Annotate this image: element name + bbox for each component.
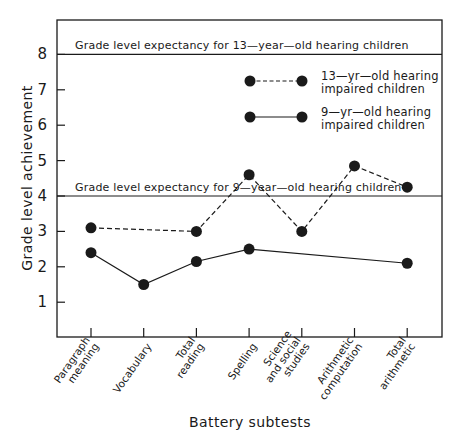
x-category-label: Totalarithmetic <box>367 334 417 392</box>
y-axis: 12345678 <box>37 45 65 311</box>
data-point-marker <box>86 247 97 258</box>
data-point-marker <box>244 169 255 180</box>
data-point-marker <box>191 226 202 237</box>
data-point-marker <box>244 244 255 255</box>
y-tick-label: 6 <box>37 116 47 134</box>
x-category-label: Totalreading <box>165 334 207 380</box>
legend-label: 9—yr—old hearing <box>321 105 431 119</box>
data-point-marker <box>296 226 307 237</box>
x-axis-title: Battery subtests <box>189 414 311 430</box>
legend-label: impaired children <box>321 118 425 132</box>
legend-marker <box>245 112 256 123</box>
x-category-label-line: Spelling <box>225 341 259 382</box>
legend-marker <box>297 112 308 123</box>
y-tick-label: 5 <box>37 152 47 170</box>
y-axis-title: Grade level achievement <box>19 85 35 270</box>
legend: 13—yr—old hearingimpaired children9—yr—o… <box>245 69 439 132</box>
x-category-label: Arithmeticcomputation <box>307 334 364 402</box>
y-tick-label: 3 <box>37 222 47 240</box>
y-tick-label: 1 <box>37 293 47 311</box>
x-category-label: Spelling <box>225 341 259 382</box>
y-tick-label: 8 <box>37 45 47 63</box>
y-tick-label: 7 <box>37 81 47 99</box>
data-point-marker <box>402 182 413 193</box>
x-category-label: Vocabulary <box>110 341 153 396</box>
x-category-label-line: Vocabulary <box>110 341 153 396</box>
data-point-marker <box>86 222 97 233</box>
data-point-marker <box>191 256 202 267</box>
data-point-marker <box>349 160 360 171</box>
legend-marker <box>297 76 308 87</box>
legend-marker <box>245 76 256 87</box>
y-tick-label: 4 <box>37 187 47 205</box>
series-layer <box>86 160 413 290</box>
x-axis: ParagraphmeaningVocabularyTotalreadingSp… <box>51 328 417 402</box>
legend-label: 13—yr—old hearing <box>321 69 439 83</box>
x-category-label: Paragraphmeaning <box>51 334 101 391</box>
reference-line-label: Grade level expectancy for 9—year—old he… <box>75 181 402 194</box>
data-point-marker <box>402 258 413 269</box>
y-tick-label: 2 <box>37 258 47 276</box>
legend-label: impaired children <box>321 82 425 96</box>
line-chart: Grade level expectancy for 13—year—old h… <box>0 0 465 441</box>
data-point-marker <box>138 279 149 290</box>
reference-line-label: Grade level expectancy for 13—year—old h… <box>75 39 409 52</box>
